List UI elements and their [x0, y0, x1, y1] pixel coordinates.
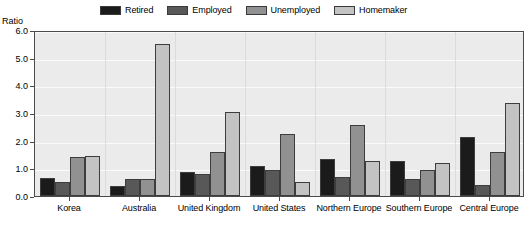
y-axis-title: Ratio: [2, 16, 23, 26]
bar[interactable]: [365, 161, 380, 196]
x-axis-tick: [69, 197, 70, 201]
bar[interactable]: [180, 172, 195, 196]
plot-area: [34, 31, 524, 197]
bar[interactable]: [40, 178, 55, 196]
y-axis-tick-label: 3.0: [0, 110, 28, 119]
gridline: [35, 60, 523, 61]
bar[interactable]: [490, 152, 505, 196]
y-axis-tick-label: 2.0: [0, 138, 28, 147]
group-separator: [245, 32, 246, 196]
bar[interactable]: [350, 125, 365, 196]
x-axis-category-label: Central Europe: [446, 203, 529, 213]
legend-swatch-icon: [167, 6, 188, 15]
y-axis-tick-label: 1.0: [0, 165, 28, 174]
x-axis-tick: [489, 197, 490, 201]
group-separator: [385, 32, 386, 196]
legend-entry-homemaker[interactable]: Homemaker: [334, 5, 407, 15]
bar[interactable]: [295, 182, 310, 196]
legend-entry-label: Unemployed: [271, 5, 321, 15]
bar[interactable]: [140, 179, 155, 196]
bar[interactable]: [320, 159, 335, 196]
bar[interactable]: [110, 186, 125, 196]
bar[interactable]: [280, 134, 295, 196]
group-separator: [315, 32, 316, 196]
legend-entry-label: Employed: [192, 5, 231, 15]
bar[interactable]: [125, 179, 140, 196]
gridline: [35, 87, 523, 88]
bar[interactable]: [225, 112, 240, 196]
group-separator: [105, 32, 106, 196]
bar[interactable]: [85, 156, 100, 196]
bar[interactable]: [505, 103, 520, 196]
bar-chart: RetiredEmployedUnemployedHomemaker Ratio…: [0, 0, 529, 234]
legend-swatch-icon: [246, 6, 267, 15]
y-axis-tick-label: 4.0: [0, 82, 28, 91]
x-axis-tick: [279, 197, 280, 201]
bar[interactable]: [250, 166, 265, 196]
bar[interactable]: [335, 177, 350, 196]
legend-entry-retired[interactable]: Retired: [100, 5, 153, 15]
y-axis-tick-label: 0.0: [0, 193, 28, 202]
legend-swatch-icon: [100, 6, 121, 15]
legend-entry-label: Retired: [125, 5, 153, 15]
bar[interactable]: [210, 152, 225, 196]
bar[interactable]: [155, 44, 170, 196]
bar[interactable]: [475, 185, 490, 196]
group-separator: [455, 32, 456, 196]
x-axis-tick: [349, 197, 350, 201]
bar[interactable]: [265, 170, 280, 196]
gridline: [35, 32, 523, 33]
gridline: [35, 143, 523, 144]
y-axis-tick-label: 5.0: [0, 55, 28, 64]
gridline: [35, 115, 523, 116]
bar[interactable]: [70, 157, 85, 196]
x-axis-tick: [419, 197, 420, 201]
bar[interactable]: [420, 170, 435, 196]
bar[interactable]: [55, 182, 70, 196]
legend-entry-label: Homemaker: [359, 5, 407, 15]
x-axis-tick: [139, 197, 140, 201]
bar[interactable]: [195, 174, 210, 196]
bar[interactable]: [405, 179, 420, 196]
bar[interactable]: [390, 161, 405, 196]
legend-swatch-icon: [334, 6, 355, 15]
chart-legend: RetiredEmployedUnemployedHomemaker: [100, 3, 500, 17]
bar[interactable]: [460, 137, 475, 196]
y-axis-tick: [30, 197, 34, 198]
bar[interactable]: [435, 163, 450, 196]
legend-entry-unemployed[interactable]: Unemployed: [246, 5, 321, 15]
legend-entry-employed[interactable]: Employed: [167, 5, 231, 15]
y-axis-tick-label: 6.0: [0, 27, 28, 36]
x-axis-tick: [209, 197, 210, 201]
group-separator: [175, 32, 176, 196]
